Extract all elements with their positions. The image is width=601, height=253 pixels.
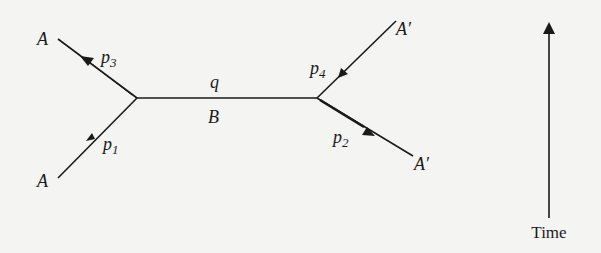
- label-a-bottom: A: [36, 171, 49, 191]
- incoming-line-a: [58, 98, 137, 178]
- label-p4: p4: [308, 58, 326, 81]
- feynman-diagram: A A p3 p1 q B p4 p2 A′ A′ Time: [0, 0, 601, 253]
- outgoing-line-a: [58, 39, 137, 98]
- label-p2: p2: [331, 127, 349, 150]
- label-p3: p3: [99, 47, 117, 70]
- arrow-p1-icon: [86, 133, 95, 141]
- label-aprime-bottom: A′: [413, 154, 430, 174]
- label-a-top: A: [36, 29, 49, 49]
- label-aprime-top: A′: [395, 19, 412, 39]
- label-q: q: [210, 72, 219, 92]
- label-b: B: [208, 107, 219, 127]
- label-p1: p1: [101, 134, 119, 157]
- time-label: Time: [531, 223, 566, 242]
- incoming-line-aprime: [317, 21, 396, 98]
- diagram-svg: A A p3 p1 q B p4 p2 A′ A′ Time: [0, 0, 601, 253]
- time-axis: Time: [531, 22, 566, 242]
- outgoing-line-aprime: [317, 98, 413, 156]
- time-arrow-icon: [543, 22, 555, 34]
